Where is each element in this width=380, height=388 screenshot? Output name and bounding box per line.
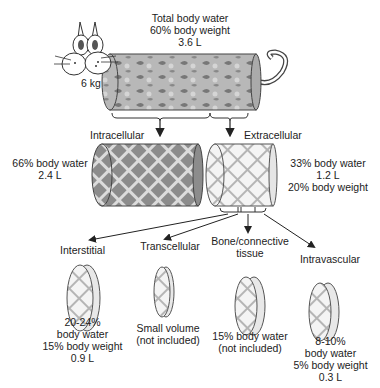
intracellular-cylinder [92, 144, 203, 206]
extracellular-label: Extracellular [244, 129, 314, 141]
bone-connective-label: Bone/connective tissue [205, 235, 295, 259]
transcellular-stats: Small volume (not included) [128, 322, 208, 346]
extracellular-cylinder [206, 144, 277, 206]
intravascular-label: Intravascular [290, 253, 370, 265]
intravascular-disc [309, 283, 339, 341]
interstitial-stats: 20-24% body water 15% body weight 0.9 L [35, 316, 130, 364]
transcellular-label: Transcellular [130, 240, 210, 252]
extracellular-bracket [220, 207, 266, 212]
cat-body-cylinder [102, 54, 261, 110]
intravascular-stats: 8-10% body water 5% body weight 0.3 L [283, 335, 378, 383]
intracellular-label: Intracellular [90, 129, 160, 141]
bone-connective-stats: 15% body water (not included) [205, 330, 295, 354]
cat-weight-label: 6 kg [76, 77, 106, 89]
intracellular-stats: 66% body water 2.4 L [6, 157, 94, 181]
extracellular-stats: 33% body water 1.2 L 20% body weight [280, 157, 376, 193]
bone-connective-disc [235, 277, 265, 335]
cat-head [54, 22, 118, 75]
total-body-water-label: Total body water 60% body weight 3.6 L [135, 12, 245, 48]
transcellular-disc [154, 267, 174, 317]
interstitial-label: Interstitial [45, 244, 120, 256]
top-bracket [112, 113, 248, 121]
